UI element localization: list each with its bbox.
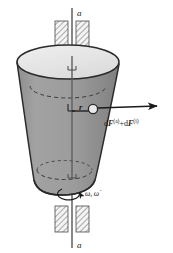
axis-label-top: a bbox=[77, 8, 82, 18]
figure-canvas: a r bbox=[0, 0, 173, 253]
bearing-bottom-left-block bbox=[55, 206, 68, 232]
physics-figure: a r bbox=[0, 0, 173, 253]
force-label-sup2: (i) bbox=[133, 118, 138, 125]
bearing-top-left-block bbox=[55, 21, 68, 47]
axis-label-bottom: a bbox=[77, 240, 82, 250]
omega-separator: , bbox=[90, 189, 92, 198]
omega-dot-symbol: ω̇ bbox=[94, 189, 102, 198]
bearing-top-right-block bbox=[76, 21, 89, 47]
body-top-rim bbox=[17, 45, 119, 79]
force-label: dF(a)+dF(i) bbox=[104, 118, 139, 128]
mass-element bbox=[88, 104, 97, 113]
rotation-label: ω,ω̇ bbox=[85, 189, 102, 198]
bearing-bottom-right-block bbox=[76, 206, 89, 232]
